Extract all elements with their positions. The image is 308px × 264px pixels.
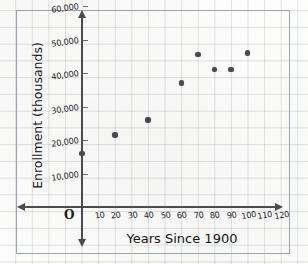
y-tick-mark (83, 40, 88, 41)
y-tick-mark (83, 6, 88, 7)
x-axis-title: Years Since 1900 (82, 231, 282, 246)
data-point (179, 80, 185, 86)
origin-label: O (64, 208, 74, 222)
x-axis-left-arrow-icon (17, 203, 25, 211)
y-tick-mark (83, 140, 88, 141)
x-tick-label: 120 (271, 209, 292, 222)
y-tick-mark (83, 73, 88, 74)
y-axis-line (81, 16, 83, 245)
x-axis-line (22, 206, 281, 208)
scatter-plot-figure: O 10,00020,00030,00040,00050,00060,000 1… (0, 0, 308, 264)
y-tick-label: 50,000 (50, 35, 79, 49)
data-point (212, 67, 218, 73)
y-tick-mark (83, 174, 88, 175)
data-point (228, 67, 234, 73)
y-tick-label: 20,000 (50, 135, 79, 149)
y-tick-mark (83, 107, 88, 108)
y-tick-label: 60,000 (50, 1, 79, 15)
y-tick-label: 10,000 (50, 169, 79, 183)
plot-area: O 10,00020,00030,00040,00050,00060,000 1… (0, 0, 308, 264)
y-axis-up-arrow-icon (78, 10, 86, 18)
data-point (195, 52, 201, 58)
data-point (79, 151, 85, 157)
y-axis-title: Enrollment (thousands) (30, 21, 45, 211)
data-point (112, 132, 118, 138)
y-tick-label: 40,000 (50, 68, 79, 82)
y-tick-label: 30,000 (50, 102, 79, 116)
data-point (245, 50, 251, 56)
data-point (145, 117, 151, 123)
